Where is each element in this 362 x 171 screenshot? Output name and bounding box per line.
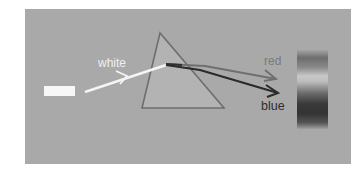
red-ray-arrow-icon bbox=[264, 70, 276, 81]
spectrum-screen bbox=[297, 50, 328, 129]
diagram-canvas: white red blue bbox=[0, 0, 362, 171]
label-blue: blue bbox=[261, 100, 285, 112]
prism-internal-ray bbox=[166, 64, 182, 65]
label-white: white bbox=[98, 57, 126, 69]
light-source bbox=[44, 86, 75, 96]
prism bbox=[142, 33, 224, 108]
label-red: red bbox=[264, 55, 281, 67]
